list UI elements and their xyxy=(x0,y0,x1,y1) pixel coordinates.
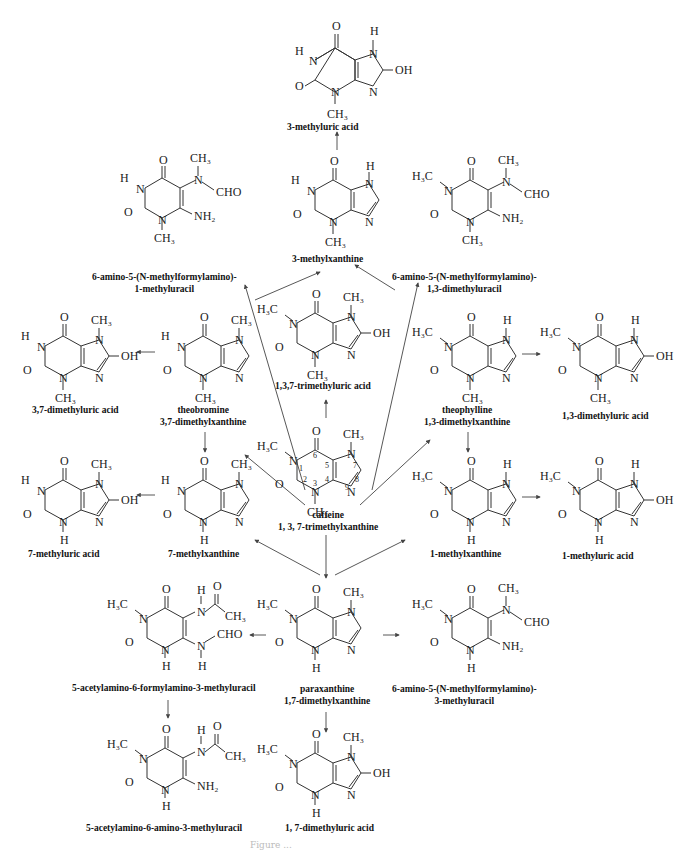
svg-text:O: O xyxy=(275,635,284,649)
label-line-2: 1,3-dimethyluracil xyxy=(392,283,537,295)
svg-text:H: H xyxy=(467,533,476,547)
structure-1-methyluric-acid: O H H₃C N N OH N O N H xyxy=(548,462,688,562)
svg-text:N: N xyxy=(289,317,298,331)
svg-text:H: H xyxy=(370,24,379,38)
svg-text:H: H xyxy=(161,329,170,343)
label-7-methyluric-acid: 7-methyluric acid xyxy=(28,548,100,560)
molecule-3-methyluric-acid: O H H N N OH N O N CH₃ xyxy=(285,10,405,110)
svg-text:N: N xyxy=(311,643,320,657)
svg-text:N: N xyxy=(311,348,320,362)
svg-text:N: N xyxy=(572,340,581,354)
svg-text:O: O xyxy=(200,310,209,324)
molecule-theophylline: O H H₃C N N N O N CH₃ xyxy=(420,318,540,418)
svg-text:CH₃: CH₃ xyxy=(343,730,364,744)
svg-text:O: O xyxy=(295,79,304,93)
molecule-6-amino-5-nmf-3-methyluracil: O CH₃ H₃C N N CHO O NH₂ N H xyxy=(420,590,550,690)
svg-text:N: N xyxy=(194,173,203,187)
svg-text:OH: OH xyxy=(656,493,674,507)
svg-text:N: N xyxy=(502,333,511,347)
svg-text:H: H xyxy=(60,533,69,547)
svg-text:CH₃: CH₃ xyxy=(91,457,112,471)
label-line-1: theobromine xyxy=(160,404,246,416)
label-line-2: 1, 3, 7-trimethylxanthine xyxy=(278,521,378,533)
svg-text:O: O xyxy=(125,635,134,649)
svg-text:N: N xyxy=(329,215,338,229)
svg-text:CH₃: CH₃ xyxy=(343,585,364,599)
svg-text:CH₃: CH₃ xyxy=(498,153,519,167)
svg-text:O: O xyxy=(430,635,439,649)
svg-text:H: H xyxy=(291,173,300,187)
label-6-amino-5-nmf-3-methyluracil: 6-amino-5-(N-methylformylamino)- 3-methy… xyxy=(392,683,537,707)
svg-text:CH₃: CH₃ xyxy=(498,581,519,595)
svg-text:N: N xyxy=(136,182,145,196)
svg-text:H₃C: H₃C xyxy=(540,325,561,339)
svg-text:O: O xyxy=(159,153,168,167)
label-line-2: 3-methyluracil xyxy=(392,695,537,707)
svg-text:H: H xyxy=(467,661,476,675)
svg-text:H: H xyxy=(631,457,640,471)
svg-text:N: N xyxy=(177,340,186,354)
svg-text:CH₃: CH₃ xyxy=(190,151,211,165)
label-1-methylxanthine: 1-methylxanthine xyxy=(430,548,501,560)
svg-text:O: O xyxy=(125,775,134,789)
svg-text:N: N xyxy=(161,783,170,797)
svg-text:CHO: CHO xyxy=(216,185,242,199)
svg-text:N: N xyxy=(347,643,356,657)
svg-text:N: N xyxy=(369,47,378,61)
svg-text:H: H xyxy=(197,723,206,737)
svg-text:O: O xyxy=(213,719,222,733)
molecule-7-methyluric-acid: O CH₃ H N N OH N O N H xyxy=(15,462,145,562)
svg-text:N: N xyxy=(158,213,167,227)
svg-text:N: N xyxy=(347,447,356,461)
svg-text:H: H xyxy=(295,44,304,58)
label-3-methyluric-acid: 3-methyluric acid xyxy=(287,121,359,133)
svg-text:H: H xyxy=(120,171,129,185)
svg-text:N: N xyxy=(466,215,475,229)
svg-text:O: O xyxy=(162,722,171,736)
label-137-trimethyluric-acid: 1,3,7-trimethyluric acid xyxy=(275,380,371,392)
label-line-1: 6-amino-5-(N-methylformylamino)- xyxy=(392,683,537,695)
label-line-1: caffeine xyxy=(278,509,378,521)
svg-text:O: O xyxy=(467,154,476,168)
svg-text:N: N xyxy=(311,788,320,802)
label-afmu: 5-acetylamino-6-formylamino-3-methylurac… xyxy=(72,682,256,694)
svg-text:O: O xyxy=(124,205,133,219)
structure-17-dimethyluric-acid: O CH₃ H₃C N N OH N O N H xyxy=(265,735,405,835)
svg-text:N: N xyxy=(235,333,244,347)
structure-7-methylxanthine: O CH₃ H N N N O N H xyxy=(155,462,275,562)
svg-text:CHO: CHO xyxy=(217,627,243,641)
svg-text:O: O xyxy=(213,579,222,593)
svg-text:O: O xyxy=(312,727,321,741)
svg-text:N: N xyxy=(289,612,298,626)
svg-text:H₃C: H₃C xyxy=(257,597,278,611)
svg-text:O: O xyxy=(23,507,32,521)
svg-text:N: N xyxy=(347,310,356,324)
svg-text:8: 8 xyxy=(355,475,359,484)
svg-text:N: N xyxy=(502,477,511,491)
svg-text:CHO: CHO xyxy=(524,615,550,629)
svg-text:N: N xyxy=(95,333,104,347)
svg-text:NH₂: NH₂ xyxy=(502,211,524,225)
svg-text:CH₃: CH₃ xyxy=(225,749,246,763)
svg-text:CH₃: CH₃ xyxy=(590,391,611,405)
svg-text:N: N xyxy=(502,603,511,617)
svg-text:O: O xyxy=(312,424,321,438)
svg-text:O: O xyxy=(312,287,321,301)
label-17-dimethyluric-acid: 1, 7-dimethyluric acid xyxy=(285,822,374,834)
svg-text:N: N xyxy=(369,85,378,99)
svg-text:4: 4 xyxy=(325,475,329,484)
svg-text:7: 7 xyxy=(353,461,357,470)
svg-text:O: O xyxy=(275,477,284,491)
structure-theophylline: O H H₃C N N N O N CH₃ xyxy=(420,318,540,418)
svg-text:H: H xyxy=(21,329,30,343)
svg-text:O: O xyxy=(200,454,209,468)
label-line-1: 6-amino-5-(N-methylformylamino)- xyxy=(392,271,537,283)
svg-text:6: 6 xyxy=(313,451,317,460)
svg-text:CH₃: CH₃ xyxy=(462,233,483,247)
svg-text:H: H xyxy=(312,806,321,820)
svg-text:CH₃: CH₃ xyxy=(231,313,252,327)
molecule-1-methyluric-acid: O H H₃C N N OH N O N H xyxy=(548,462,688,562)
svg-text:O: O xyxy=(467,454,476,468)
svg-text:N: N xyxy=(309,54,318,68)
label-1-methyluric-acid: 1-methyluric acid xyxy=(562,550,634,562)
